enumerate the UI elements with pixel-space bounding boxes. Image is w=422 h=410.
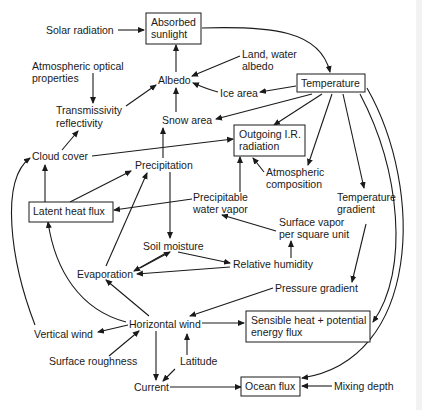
edge-roughness-wind xyxy=(109,331,139,356)
edge-vapor-latent xyxy=(114,199,192,210)
surface-vapor-label-1: Surface vapor xyxy=(279,216,345,228)
latent-heat-flux-label: Latent heat flux xyxy=(33,205,106,217)
land-water-albedo-label-2: albedo xyxy=(242,60,274,72)
horizontal-wind-label: Horizontal wind xyxy=(129,318,201,330)
mixing-depth-label: Mixing depth xyxy=(334,380,394,392)
evaporation-label: Evaporation xyxy=(77,268,133,280)
edge-soil-humidity xyxy=(178,252,230,263)
edge-humidity-evaporation xyxy=(137,267,230,274)
ocean-flux-label: Ocean flux xyxy=(245,380,296,392)
diagram-canvas: Solar radiation Absorbed sunlight Atmosp… xyxy=(0,0,422,410)
edge-temperature-ice xyxy=(260,86,296,92)
atm-optical-label-1: Atmospheric optical xyxy=(32,60,124,72)
edge-landwater-albedo xyxy=(192,56,240,76)
temp-gradient-label-2: gradient xyxy=(337,203,375,215)
transmissivity-label-1: Transmissivity xyxy=(56,104,123,116)
sensible-heat-label-1: Sensible heat + potential xyxy=(251,314,366,326)
cloud-cover-label: Cloud cover xyxy=(32,150,89,162)
precipitable-vapor-label-1: Precipitable xyxy=(193,191,248,203)
temperature-label: Temperature xyxy=(301,77,360,89)
edge-latent-precipitation xyxy=(70,171,131,202)
edge-wind-vertical xyxy=(98,325,128,332)
temp-gradient-label-1: Temperature xyxy=(337,191,396,203)
edge-vertical-cloud xyxy=(11,158,35,325)
edge-surface-precipitable xyxy=(222,215,276,231)
edge-cloud-transmissivity xyxy=(62,131,78,150)
sensible-heat-label-2: energy flux xyxy=(251,326,303,338)
edge-latitude-current xyxy=(163,369,175,381)
precipitable-vapor-label-2: water vapor xyxy=(192,203,248,215)
outgoing-ir-label-2: radiation xyxy=(239,140,279,152)
solar-radiation-label: Solar radiation xyxy=(46,24,114,36)
transmissivity-label-2: reflectivity xyxy=(56,117,103,129)
edge-gradient-pressure xyxy=(352,224,366,282)
land-water-albedo-label-1: Land, water xyxy=(242,48,297,60)
edge-temperature-ir xyxy=(274,94,322,125)
ice-area-label: Ice area xyxy=(220,87,258,99)
vertical-wind-label: Vertical wind xyxy=(34,328,93,340)
outgoing-ir-label-1: Outgoing I.R. xyxy=(239,128,301,140)
precipitation-label: Precipitation xyxy=(135,159,193,171)
soil-moisture-label: Soil moisture xyxy=(143,240,204,252)
edge-composition-ir xyxy=(253,158,264,172)
edge-evaporation-soil xyxy=(140,252,170,268)
atm-composition-label-1: Atmospheric xyxy=(266,166,324,178)
edge-temperature-gradient xyxy=(343,94,364,188)
edge-soil-evaporation xyxy=(134,253,166,271)
albedo-label: Albedo xyxy=(158,74,191,86)
absorbed-sunlight-label-2: sunlight xyxy=(151,28,187,40)
relative-humidity-label: Relative humidity xyxy=(233,258,314,270)
surface-roughness-label: Surface roughness xyxy=(49,355,137,367)
atm-composition-label-2: composition xyxy=(266,178,322,190)
surface-vapor-label-2: per square unit xyxy=(279,228,349,240)
edge-wind-evaporation xyxy=(106,280,149,316)
edge-ice-albedo xyxy=(193,83,218,92)
snow-area-label: Snow area xyxy=(162,114,212,126)
edge-temperature-composition xyxy=(308,94,332,165)
latitude-label: Latitude xyxy=(180,355,218,367)
current-label: Current xyxy=(134,381,169,393)
pressure-gradient-label: Pressure gradient xyxy=(275,282,358,294)
atm-optical-label-2: properties xyxy=(32,72,79,84)
edge-transmissivity-albedo xyxy=(126,85,156,106)
right-edge-strip xyxy=(416,0,422,410)
absorbed-sunlight-label-1: Absorbed xyxy=(151,16,196,28)
